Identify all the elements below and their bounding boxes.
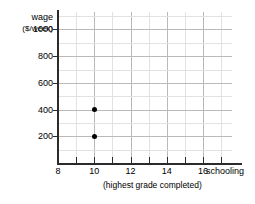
y-axis-tick bbox=[53, 136, 58, 137]
gridline-vertical-minor bbox=[185, 12, 186, 163]
gridline-vertical-minor bbox=[221, 12, 222, 163]
x-axis-tick bbox=[185, 157, 186, 163]
x-axis-sublabel: (highest grade completed) bbox=[103, 180, 202, 191]
gridline-horizontal-major bbox=[58, 29, 232, 30]
y-axis-line bbox=[57, 10, 59, 165]
x-axis-tick-label: 8 bbox=[47, 166, 69, 176]
y-axis-tick bbox=[53, 29, 58, 30]
gridline-horizontal-minor bbox=[58, 43, 232, 44]
gridline-horizontal-major bbox=[58, 83, 232, 84]
gridline-vertical-minor bbox=[149, 12, 150, 163]
x-axis-line bbox=[57, 163, 242, 165]
x-axis-tick bbox=[167, 157, 168, 163]
gridline-horizontal-major bbox=[58, 136, 232, 137]
gridline-vertical-minor bbox=[112, 12, 113, 163]
y-axis-tick-label: 1000 bbox=[9, 24, 53, 34]
data-point bbox=[92, 107, 97, 112]
x-axis-tick bbox=[94, 157, 95, 163]
gridline-horizontal-major bbox=[58, 110, 232, 111]
x-axis-tick bbox=[112, 157, 113, 163]
y-axis-tick-label: 600 bbox=[9, 78, 53, 88]
y-axis-tick bbox=[53, 83, 58, 84]
gridline-horizontal-major bbox=[58, 56, 232, 57]
x-axis-tick-label: 10 bbox=[83, 166, 105, 176]
gridline-horizontal-minor bbox=[58, 16, 232, 17]
y-axis-tick bbox=[53, 56, 58, 57]
gridline-horizontal-minor bbox=[58, 96, 232, 97]
gridline-vertical-major bbox=[94, 12, 95, 163]
gridline-horizontal-minor bbox=[58, 70, 232, 71]
x-axis-tick bbox=[149, 157, 150, 163]
x-axis-tick bbox=[76, 157, 77, 163]
gridline-vertical-major bbox=[167, 12, 168, 163]
plot-area bbox=[58, 12, 232, 163]
wage-schooling-scatter-chart: wage ($/week) schooling (highest grade c… bbox=[0, 0, 255, 204]
y-axis-tick bbox=[53, 110, 58, 111]
gridline-vertical-major bbox=[131, 12, 132, 163]
y-axis-tick-label: 200 bbox=[9, 131, 53, 141]
gridline-horizontal-minor bbox=[58, 123, 232, 124]
x-axis-tick bbox=[221, 157, 222, 163]
x-axis-tick bbox=[203, 157, 204, 163]
gridline-horizontal-minor bbox=[58, 150, 232, 151]
x-axis-tick bbox=[58, 157, 59, 163]
x-axis-tick bbox=[131, 157, 132, 163]
x-axis-tick-label: 12 bbox=[120, 166, 142, 176]
x-axis-tick-label: 16 bbox=[192, 166, 214, 176]
gridline-vertical-minor bbox=[76, 12, 77, 163]
y-axis-tick-label: 800 bbox=[9, 51, 53, 61]
gridline-vertical-major bbox=[203, 12, 204, 163]
y-axis-title: wage bbox=[9, 12, 53, 23]
data-point bbox=[92, 134, 97, 139]
y-axis-tick-label: 400 bbox=[9, 105, 53, 115]
x-axis-tick-label: 14 bbox=[156, 166, 178, 176]
